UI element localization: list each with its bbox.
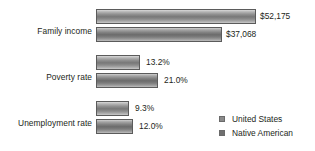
legend-label-native-american: Native American: [232, 127, 293, 139]
bar-chart: Family income Poverty rate Unemployment …: [0, 0, 315, 151]
bar-unemployment-rate-native-american[interactable]: [96, 119, 133, 134]
bar-family-income-united-states[interactable]: [96, 9, 256, 24]
legend-label-united-states: United States: [232, 113, 282, 125]
bar-poverty-rate-native-american[interactable]: [96, 73, 158, 88]
legend-swatch-icon-native-american: [219, 130, 225, 136]
bar-unemployment-rate-united-states[interactable]: [96, 101, 129, 116]
bar-value-poverty-rate-native-american: 21.0%: [164, 75, 188, 85]
bar-value-family-income-united-states: $52,175: [260, 11, 290, 21]
bar-value-unemployment-rate-united-states: 9.3%: [135, 103, 154, 113]
category-label-family-income: Family income: [2, 26, 92, 36]
bar-value-unemployment-rate-native-american: 12.0%: [139, 121, 163, 131]
category-label-poverty-rate: Poverty rate: [2, 72, 92, 82]
legend-swatch-icon-united-states: [219, 116, 225, 122]
bar-value-family-income-native-american: $37,068: [226, 29, 256, 39]
bar-family-income-native-american[interactable]: [96, 27, 222, 42]
category-label-unemployment-rate: Unemployment rate: [2, 118, 92, 128]
bar-poverty-rate-united-states[interactable]: [96, 55, 140, 70]
bar-value-poverty-rate-united-states: 13.2%: [146, 57, 170, 67]
